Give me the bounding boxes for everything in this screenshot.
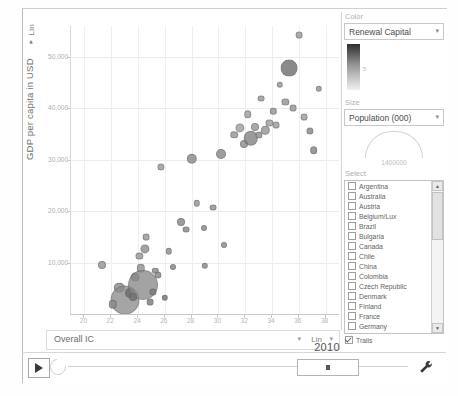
country-row[interactable]: Chile xyxy=(345,251,431,261)
country-checkbox[interactable] xyxy=(348,312,356,320)
country-row[interactable]: Brazil xyxy=(345,221,431,231)
play-icon xyxy=(35,363,43,373)
size-group-label: Size xyxy=(345,98,444,107)
scrollbar-thumb[interactable] xyxy=(432,192,443,240)
loop-icon[interactable] xyxy=(47,356,69,378)
country-row[interactable]: Finland xyxy=(345,301,431,311)
country-checkbox[interactable] xyxy=(348,262,356,270)
gridline-vertical xyxy=(272,26,273,314)
data-bubble[interactable] xyxy=(202,262,208,268)
timeline-handle[interactable] xyxy=(297,359,359,376)
data-bubble[interactable] xyxy=(261,126,269,134)
gridline-vertical xyxy=(218,26,219,314)
data-bubble[interactable] xyxy=(301,114,308,121)
scroll-down-icon[interactable]: ▼ xyxy=(432,323,443,333)
country-row[interactable]: Denmark xyxy=(345,291,431,301)
y-tick-label: 40,000 xyxy=(22,104,71,111)
country-checkbox[interactable] xyxy=(348,182,356,190)
country-row[interactable]: Australia xyxy=(345,191,431,201)
data-bubble[interactable] xyxy=(273,121,280,128)
data-bubble[interactable] xyxy=(221,242,227,248)
country-row[interactable]: Czech Republic xyxy=(345,281,431,291)
data-bubble[interactable] xyxy=(157,163,164,170)
country-row[interactable]: Colombia xyxy=(345,271,431,281)
country-label: China xyxy=(359,263,377,270)
wrench-icon[interactable] xyxy=(418,359,434,375)
country-checkbox[interactable] xyxy=(348,222,356,230)
country-label: Argentina xyxy=(359,183,388,190)
country-checkbox[interactable] xyxy=(348,212,356,220)
data-bubble[interactable] xyxy=(166,248,172,254)
x-tick-label: 24 xyxy=(133,317,140,324)
color-group-label: Color xyxy=(345,12,444,21)
x-tick-label: 34 xyxy=(267,317,274,324)
y-tick-mark xyxy=(67,160,70,161)
country-checkbox[interactable] xyxy=(348,292,356,300)
play-button[interactable] xyxy=(28,358,50,378)
data-bubble[interactable] xyxy=(143,234,150,241)
data-bubble[interactable] xyxy=(216,149,226,159)
country-checkbox[interactable] xyxy=(348,202,356,210)
country-row[interactable]: Bulgaria xyxy=(345,231,431,241)
data-bubble[interactable] xyxy=(235,123,244,132)
country-checkbox[interactable] xyxy=(348,242,356,250)
data-bubble[interactable] xyxy=(281,60,298,77)
data-bubble[interactable] xyxy=(186,153,196,163)
color-indicator-select[interactable]: Renewal Capital ▾ xyxy=(344,23,444,40)
country-row[interactable]: France xyxy=(345,311,431,321)
data-bubble[interactable] xyxy=(295,32,302,39)
data-bubble[interactable] xyxy=(155,271,162,278)
country-row[interactable]: China xyxy=(345,261,431,271)
bubble-chart-app: Lin ▾ GDP per capita in USD 10,00020,000… xyxy=(0,0,458,396)
country-list-scrollbar[interactable]: ▲ ▼ xyxy=(431,181,443,333)
country-row[interactable]: Germany xyxy=(345,321,431,331)
data-bubble[interactable] xyxy=(183,226,190,233)
country-checkbox[interactable] xyxy=(348,272,356,280)
data-bubble[interactable] xyxy=(244,110,252,118)
y-tick-mark xyxy=(67,211,70,212)
y-axis-title: GDP per capita in USD xyxy=(24,10,35,160)
scroll-up-icon[interactable]: ▲ xyxy=(432,181,443,191)
chart-area: Lin ▾ GDP per capita in USD 10,00020,000… xyxy=(22,10,340,328)
country-row[interactable]: Austria xyxy=(345,201,431,211)
country-checkbox[interactable] xyxy=(348,302,356,310)
data-bubble[interactable] xyxy=(98,261,106,269)
country-checkbox[interactable] xyxy=(348,232,356,240)
data-bubble[interactable] xyxy=(290,104,297,111)
size-max-value: 1400000 xyxy=(344,159,444,166)
country-label: Denmark xyxy=(359,293,387,300)
size-indicator-select[interactable]: Population (000) ▾ xyxy=(344,109,444,126)
country-row[interactable]: Canada xyxy=(345,241,431,251)
data-bubble[interactable] xyxy=(310,146,318,154)
data-bubble[interactable] xyxy=(149,288,156,295)
country-row[interactable]: Argentina xyxy=(345,181,431,191)
data-bubble[interactable] xyxy=(170,264,176,270)
data-bubble[interactable] xyxy=(316,86,322,92)
country-checkbox[interactable] xyxy=(348,282,356,290)
country-listbox[interactable]: ArgentinaAustraliaAustriaBelgium/LuxBraz… xyxy=(344,180,444,334)
x-axis-indicator-control[interactable]: Overall IC ▾ Lin ▾ xyxy=(46,330,340,350)
data-bubble[interactable] xyxy=(194,200,200,206)
data-bubble[interactable] xyxy=(147,299,154,306)
data-bubble[interactable] xyxy=(201,225,207,231)
country-checkbox[interactable] xyxy=(348,322,356,330)
country-checkbox[interactable] xyxy=(348,192,356,200)
country-checkbox[interactable] xyxy=(348,252,356,260)
scatter-plot-canvas[interactable] xyxy=(70,26,339,315)
data-bubble[interactable] xyxy=(140,245,149,254)
data-bubble[interactable] xyxy=(258,95,265,102)
trails-toggle[interactable]: Trails xyxy=(344,336,444,344)
data-bubble[interactable] xyxy=(177,218,185,226)
data-bubble[interactable] xyxy=(251,123,259,131)
data-bubble[interactable] xyxy=(270,108,276,114)
data-bubble[interactable] xyxy=(282,99,289,106)
data-bubble[interactable] xyxy=(129,293,137,301)
data-bubble[interactable] xyxy=(210,204,217,211)
data-bubble[interactable] xyxy=(162,295,168,301)
size-scale-ring[interactable] xyxy=(365,131,423,158)
data-bubble[interactable] xyxy=(306,127,313,134)
country-row[interactable]: Belgium/Lux xyxy=(345,211,431,221)
country-label: Germany xyxy=(359,323,387,330)
data-bubble[interactable] xyxy=(277,81,283,87)
data-bubble[interactable] xyxy=(136,252,143,259)
